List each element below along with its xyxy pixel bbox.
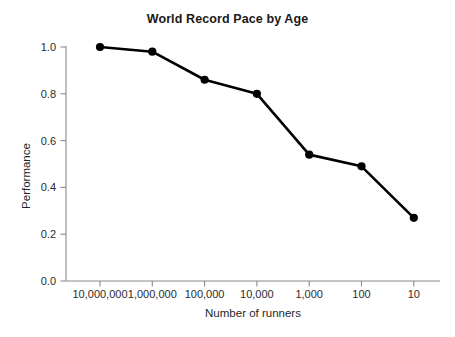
x-tick-label: 100 [352,288,370,300]
x-tick-label: 1,000 [295,288,323,300]
data-point-marker [253,90,261,98]
chart-figure: World Record Pace by Age 0.00.20.40.60.8… [0,0,455,337]
data-point-marker [148,48,156,56]
y-tick-label: 0.0 [41,275,56,287]
y-tick-label: 0.8 [41,88,56,100]
data-point-marker [201,76,209,84]
line-chart-plot: 0.00.20.40.60.81.0 10,000,0001,000,00010… [0,0,455,337]
data-point-marker [305,151,313,159]
data-point-marker [96,43,104,51]
x-tick-label: 100,000 [185,288,225,300]
x-axis: 10,000,0001,000,000100,00010,0001,000100… [66,281,440,300]
data-point-marker [357,162,365,170]
x-tick-label: 10,000,000 [72,288,127,300]
y-tick-label: 0.2 [41,228,56,240]
y-axis-ticks [61,47,67,281]
y-tick-label: 1.0 [41,41,56,53]
data-series-line [100,47,414,218]
data-point-marker [410,214,418,222]
y-axis: 0.00.20.40.60.81.0 [41,41,66,287]
x-tick-label: 10,000 [240,288,274,300]
x-axis-ticks [100,281,414,287]
y-axis-title: Performance [20,143,32,209]
y-tick-label: 0.6 [41,135,56,147]
data-point-markers [96,43,418,222]
x-tick-label: 10 [408,288,420,300]
y-axis-tick-labels: 0.00.20.40.60.81.0 [41,41,56,287]
x-axis-title: Number of runners [205,307,301,319]
x-tick-label: 1,000,000 [128,288,177,300]
x-axis-tick-labels: 10,000,0001,000,000100,00010,0001,000100… [72,288,419,300]
y-tick-label: 0.4 [41,181,56,193]
